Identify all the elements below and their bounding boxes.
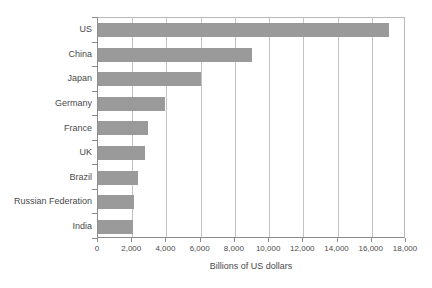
bar (98, 220, 133, 234)
bar-row (98, 43, 404, 68)
x-axis-tick-label: 10,000 (256, 244, 280, 254)
y-axis-label: US (0, 24, 92, 34)
x-axis-tick-label: 0 (95, 244, 99, 254)
x-axis-tick (200, 238, 201, 242)
bar-row (98, 116, 404, 141)
x-axis-tick (97, 238, 98, 242)
bar (98, 97, 165, 111)
x-axis-tick-label: 2,000 (121, 244, 141, 254)
bar (98, 121, 148, 135)
bar-row (98, 67, 404, 92)
plot-area (97, 17, 405, 238)
x-axis-tick-labels: 02,0004,0006,0008,00010,00012,00014,0001… (0, 244, 432, 256)
x-axis-tick (268, 238, 269, 242)
bar-row (98, 18, 404, 43)
y-axis-label: Germany (0, 98, 92, 108)
x-axis-tick-label: 6,000 (190, 244, 210, 254)
x-axis-title: Billions of US dollars (97, 261, 405, 272)
bar (98, 48, 252, 62)
x-axis-tick (234, 238, 235, 242)
bar (98, 23, 389, 37)
bar-row (98, 214, 404, 239)
x-axis-tick (165, 238, 166, 242)
x-axis-tick-label: 12,000 (290, 244, 314, 254)
bar (98, 146, 145, 160)
y-axis-label: India (0, 221, 92, 231)
bar-row (98, 165, 404, 190)
x-axis-tick (371, 238, 372, 242)
y-axis-label: China (0, 49, 92, 59)
bar (98, 171, 138, 185)
x-axis-ticks (97, 238, 406, 243)
bars-layer (98, 18, 404, 237)
bar-chart: USChinaJapanGermanyFranceUKBrazilRussian… (0, 0, 432, 288)
x-axis-tick (337, 238, 338, 242)
y-axis-label: Japan (0, 73, 92, 83)
x-axis-tick-label: 18,000 (393, 244, 417, 254)
bar-row (98, 141, 404, 166)
bar-row (98, 92, 404, 117)
x-axis-tick (405, 238, 406, 242)
x-axis-tick-label: 8,000 (224, 244, 244, 254)
bar (98, 72, 201, 86)
bar-row (98, 190, 404, 215)
y-axis-label: Brazil (0, 172, 92, 182)
bar (98, 195, 134, 209)
x-axis-tick-label: 4,000 (155, 244, 175, 254)
x-axis-tick (302, 238, 303, 242)
x-axis-tick-label: 14,000 (324, 244, 348, 254)
x-axis-tick (131, 238, 132, 242)
y-axis-label: France (0, 123, 92, 133)
y-axis-labels: USChinaJapanGermanyFranceUKBrazilRussian… (0, 17, 92, 238)
x-axis-tick-label: 16,000 (359, 244, 383, 254)
y-axis-label: Russian Federation (0, 196, 92, 206)
y-axis-label: UK (0, 147, 92, 157)
